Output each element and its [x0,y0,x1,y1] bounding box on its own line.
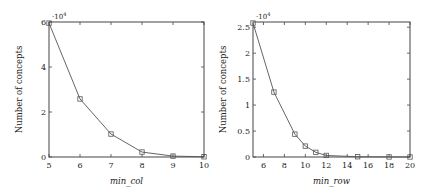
x-tick-label: 5 [46,161,51,170]
chart-canvas: 56789100246·104min_colNumber of concepts… [0,0,429,189]
x-axis-label: min_col [110,176,143,187]
y-axis-label: Number of concepts [218,46,228,134]
y-tick-label: 4 [41,63,46,72]
x-tick-label: 9 [170,161,175,170]
axes-frame [49,22,204,157]
y-tick-label: 0 [41,153,46,162]
y-tick-label: 0.5 [237,127,250,136]
y-tick-label: 2.5 [237,23,250,32]
y-axis-label: Number of concepts [14,46,24,134]
x-tick-label: 10 [300,161,310,170]
y-tick-label: 2 [245,49,250,58]
plot-left: 56789100246·104min_colNumber of concepts [14,11,209,187]
axes-frame [253,22,410,157]
x-tick-label: 7 [108,161,113,170]
y-tick-label: 1 [245,101,250,110]
data-line [49,23,204,157]
x-tick-label: 8 [139,161,144,170]
plot-right: 6810121416182000.511.522.5·104min_rowNum… [218,11,415,187]
y-tick-label: 2 [41,108,46,117]
x-tick-label: 18 [384,161,394,170]
x-tick-label: 10 [199,161,209,170]
x-tick-label: 8 [282,161,287,170]
x-tick-label: 12 [321,161,331,170]
x-tick-label: 16 [363,161,373,170]
x-axis-label: min_row [313,176,351,187]
data-line [253,23,410,157]
x-tick-label: 14 [342,161,352,170]
x-tick-label: 20 [405,161,415,170]
y-multiplier: ·104 [256,11,270,21]
x-tick-label: 6 [77,161,82,170]
y-tick-label: 1.5 [237,75,250,84]
y-tick-label: 6 [41,18,46,27]
y-tick-label: 0 [245,153,250,162]
x-tick-label: 6 [261,161,266,170]
y-multiplier: ·104 [52,11,66,21]
